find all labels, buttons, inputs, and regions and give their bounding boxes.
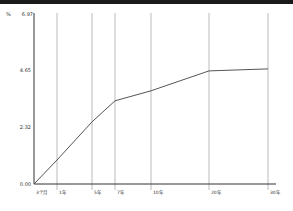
x-tick-label: 30年 (270, 189, 280, 195)
x-tick-label: 20年 (211, 189, 221, 195)
y-tick-label: 2.32 (1, 124, 31, 130)
y-tick-label: 4.65 (1, 67, 31, 73)
chart-plot (0, 0, 293, 211)
x-tick-label: 5年 (94, 189, 101, 195)
x-tick-label: 1年 (59, 189, 66, 195)
y-tick-label: 0.00 (1, 181, 31, 187)
y-tick-label: 6.97 (3, 11, 33, 17)
vertical-gridlines (57, 13, 268, 190)
x-tick-label: 7年 (117, 189, 124, 195)
yield-curve-chart: % 6.97 4.65 2.32 0.00 3个月 1年 5年 7年 10年 2… (0, 0, 293, 211)
x-tick-label: 10年 (153, 189, 163, 195)
x-tick-label: 3个月 (36, 189, 47, 195)
